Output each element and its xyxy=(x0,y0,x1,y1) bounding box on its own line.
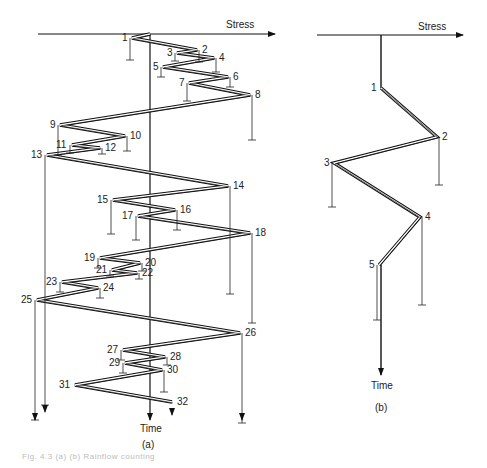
panel-a-load-path xyxy=(37,34,251,403)
reversal-label: 3 xyxy=(167,47,173,58)
panel-b-label: (b) xyxy=(375,402,387,413)
panel-a-time-label: Time xyxy=(140,423,162,434)
reversal-label: 17 xyxy=(122,210,134,221)
panel-b-rainflow-drops xyxy=(328,137,443,320)
reversal-label: 22 xyxy=(142,267,154,278)
reversal-label: 2 xyxy=(442,131,448,142)
reversal-label: 10 xyxy=(130,130,142,141)
panel-a-stress-label: Stress xyxy=(226,19,254,30)
reversal-label: 28 xyxy=(170,351,182,362)
reversal-label: 7 xyxy=(179,77,185,88)
reversal-label: 16 xyxy=(180,204,192,215)
reversal-label: 13 xyxy=(31,149,43,160)
reversal-label: 1 xyxy=(122,32,128,43)
reversal-label: 12 xyxy=(105,142,117,153)
reversal-label: 19 xyxy=(84,252,96,263)
reversal-label: 3 xyxy=(324,157,330,168)
reversal-label: 14 xyxy=(233,180,245,191)
panel-b-time-label: Time xyxy=(371,380,393,391)
reversal-label: 23 xyxy=(46,276,58,287)
panel-b-axes xyxy=(317,35,463,375)
reversal-label: 9 xyxy=(50,119,56,130)
reversal-label: 32 xyxy=(177,396,189,407)
reversal-label: 29 xyxy=(109,357,121,368)
panel-b-stress-label: Stress xyxy=(418,21,446,32)
reversal-label: 8 xyxy=(255,89,261,100)
reversal-label: 25 xyxy=(21,294,33,305)
reversal-label: 31 xyxy=(59,379,71,390)
reversal-label: 4 xyxy=(219,52,225,63)
reversal-label: 2 xyxy=(202,44,208,55)
panel-b-reversal-labels: 12345 xyxy=(324,82,448,270)
reversal-label: 6 xyxy=(233,71,239,82)
reversal-label: 26 xyxy=(245,327,257,338)
panel-a-label: (a) xyxy=(142,439,154,450)
reversal-label: 5 xyxy=(369,259,375,270)
reversal-label: 4 xyxy=(425,211,431,222)
reversal-label: 15 xyxy=(97,194,109,205)
reversal-label: 24 xyxy=(103,282,115,293)
reversal-label: 18 xyxy=(255,227,267,238)
rainflow-figure: Stress Time (a) 123456789101112131415161… xyxy=(0,0,487,468)
reversal-label: 1 xyxy=(371,82,377,93)
reversal-label: 5 xyxy=(153,61,159,72)
reversal-label: 27 xyxy=(107,344,119,355)
reversal-label: 30 xyxy=(167,364,179,375)
figure-caption: Fig. 4.3 (a) (b) Rainflow counting xyxy=(22,452,155,461)
